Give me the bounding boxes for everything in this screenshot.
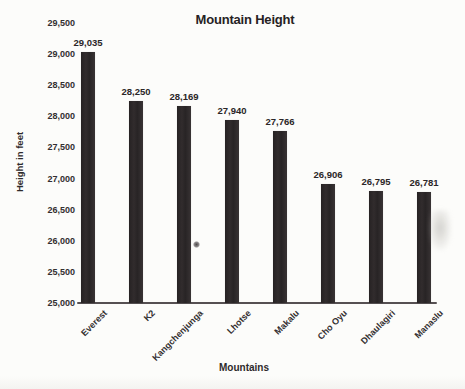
bar-cho-oyu bbox=[321, 184, 335, 303]
x-tick-label: Manaslu bbox=[413, 308, 446, 341]
bar-value-label: 27,940 bbox=[217, 105, 246, 116]
y-tick-label: 26,500 bbox=[47, 205, 75, 215]
bar-kangchenjunga bbox=[177, 106, 191, 303]
bar-k2 bbox=[129, 101, 143, 303]
bar-value-label: 26,795 bbox=[361, 176, 390, 187]
bar-lhotse bbox=[225, 120, 239, 303]
x-tick-label: Lhotse bbox=[225, 308, 254, 337]
plot-area: 25,00025,50026,00026,50027,00027,50028,0… bbox=[0, 0, 465, 389]
bar-makalu bbox=[273, 131, 287, 303]
bar-value-label: 27,766 bbox=[265, 116, 294, 127]
y-tick-label: 29,500 bbox=[47, 18, 75, 28]
chart-canvas: Mountain Height Height in feet 25,00025,… bbox=[0, 0, 465, 389]
bar-everest bbox=[81, 52, 95, 303]
y-tick-label: 25,500 bbox=[47, 267, 75, 277]
y-tick-label: 28,000 bbox=[47, 111, 75, 121]
y-tick-label: 27,000 bbox=[47, 174, 75, 184]
bar-value-label: 28,169 bbox=[169, 91, 198, 102]
scan-smudge-artifact bbox=[429, 210, 451, 250]
bar-value-label: 26,906 bbox=[313, 169, 342, 180]
bar-value-label: 28,250 bbox=[121, 86, 150, 97]
scan-speck-artifact bbox=[193, 241, 200, 248]
y-tick-label: 25,000 bbox=[47, 298, 75, 308]
y-tick-label: 29,000 bbox=[47, 49, 75, 59]
x-tick-label: Makalu bbox=[272, 308, 301, 337]
x-tick-label: K2 bbox=[142, 308, 158, 324]
y-tick-label: 27,500 bbox=[47, 142, 75, 152]
x-tick-label: Kangchenjunga bbox=[150, 308, 206, 364]
scan-noise-artifact bbox=[0, 376, 465, 389]
y-tick-label: 26,000 bbox=[47, 236, 75, 246]
bar-value-label: 26,781 bbox=[409, 177, 438, 188]
x-axis-title: Mountains bbox=[219, 362, 269, 373]
bar-value-label: 29,035 bbox=[73, 37, 102, 48]
x-tick-label: Dhaulagiri bbox=[359, 308, 398, 347]
y-tick-label: 28,500 bbox=[47, 80, 75, 90]
x-tick-label: Everest bbox=[79, 308, 110, 339]
x-tick-label: Cho Oyu bbox=[315, 308, 349, 342]
bar-dhaulagiri bbox=[369, 191, 383, 303]
